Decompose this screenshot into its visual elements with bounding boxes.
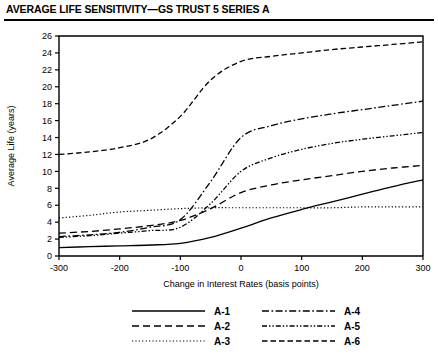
series-line-a-3: [59, 207, 423, 218]
x-axis-label: Change in Interest Rates (basis points): [163, 279, 319, 289]
legend-label-a-4: A-4: [344, 306, 361, 317]
x-tick-label: 200: [355, 263, 370, 273]
y-tick-label: 24: [42, 48, 52, 58]
x-tick-label: -200: [111, 263, 129, 273]
series-line-a-2: [59, 165, 423, 233]
legend-label-a-5: A-5: [344, 321, 361, 332]
legend-label-a-2: A-2: [214, 321, 231, 332]
y-tick-label: 10: [42, 167, 52, 177]
y-tick-label: 8: [47, 184, 52, 194]
y-tick-label: 6: [47, 200, 52, 210]
y-tick-label: 16: [42, 116, 52, 126]
x-tick-label: -300: [50, 263, 68, 273]
series-line-a-4: [59, 101, 423, 236]
x-tick-label: 100: [294, 263, 309, 273]
series-line-a-6: [59, 42, 423, 155]
y-tick-label: 0: [47, 251, 52, 261]
legend-label-a-3: A-3: [214, 336, 231, 347]
series-line-a-1: [59, 180, 423, 248]
legend-label-a-6: A-6: [344, 336, 361, 347]
legend-label-a-1: A-1: [214, 306, 231, 317]
chart-page: AVERAGE LIFE SENSITIVITY—GS TRUST 5 SERI…: [0, 0, 438, 357]
x-axis-ticks: -300-200-1000100200300: [50, 256, 431, 273]
y-axis-ticks: 02468101214161820222426: [42, 31, 59, 261]
x-tick-label: -100: [171, 263, 189, 273]
x-tick-label: 0: [238, 263, 243, 273]
y-tick-label: 12: [42, 150, 52, 160]
page-title: AVERAGE LIFE SENSITIVITY—GS TRUST 5 SERI…: [6, 3, 269, 15]
x-tick-label: 300: [415, 263, 430, 273]
y-tick-label: 18: [42, 99, 52, 109]
plot-frame: [59, 36, 423, 256]
chart-plot-area: 02468101214161820222426 -300-200-1000100…: [0, 20, 438, 295]
y-tick-label: 14: [42, 133, 52, 143]
y-tick-label: 22: [42, 65, 52, 75]
data-series-group: [59, 42, 423, 248]
y-axis-label: Average Life (years): [6, 106, 16, 187]
y-tick-label: 4: [47, 217, 52, 227]
y-tick-label: 20: [42, 82, 52, 92]
y-tick-label: 2: [47, 234, 52, 244]
chart-legend: A-1A-2A-3A-4A-5A-6: [0, 295, 438, 357]
y-tick-label: 26: [42, 31, 52, 41]
